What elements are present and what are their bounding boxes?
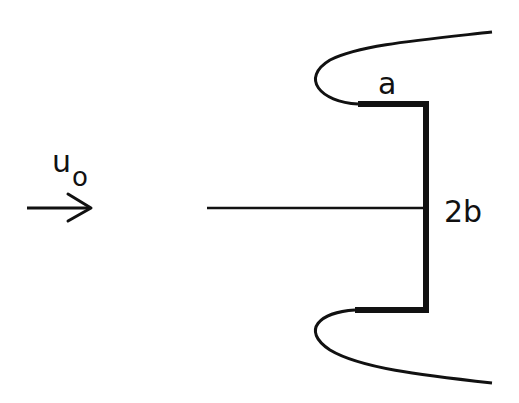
velocity-label: u [52, 144, 71, 179]
flow-arrow-icon [27, 194, 91, 221]
velocity-subscript: o [72, 162, 88, 192]
diagram-canvas: u o a 2b [0, 0, 519, 403]
gap-width-label: 2b [444, 194, 482, 229]
lower-free-streamline [315, 310, 492, 383]
plate-length-label: a [378, 66, 396, 101]
upper-free-streamline [315, 32, 492, 104]
